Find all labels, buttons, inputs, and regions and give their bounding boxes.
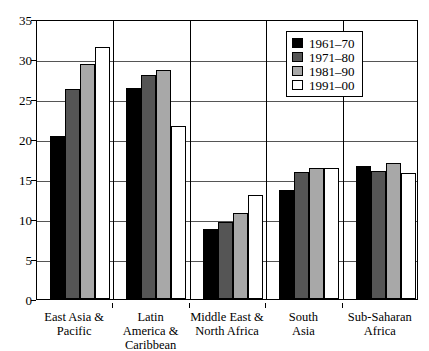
y-tick-mark [31, 260, 36, 261]
legend-item: 1991–00 [292, 78, 355, 92]
x-group-label: Sub-SaharanAfrica [342, 310, 418, 338]
y-tick-label: 25 [6, 94, 32, 107]
legend-swatch-icon [292, 66, 303, 76]
legend-label: 1991–00 [309, 79, 355, 92]
legend-label: 1971–80 [309, 51, 355, 64]
y-tick-label: 0 [6, 294, 32, 307]
legend: 1961–701971–801981–901991–00 [286, 31, 363, 97]
bar [95, 47, 110, 299]
x-group-label: SouthAsia [265, 310, 341, 338]
legend-item: 1981–90 [292, 64, 355, 78]
x-tick-mark [265, 303, 266, 308]
y-axis: 35302520151050 [0, 20, 32, 300]
group-separator [113, 21, 114, 299]
x-tick-mark [112, 303, 113, 308]
bar [356, 166, 371, 299]
bar [156, 70, 171, 299]
bar [279, 190, 294, 299]
bar [65, 89, 80, 299]
x-tick-mark [342, 303, 343, 308]
legend-swatch-icon [292, 38, 303, 48]
x-axis: East Asia &PacificLatinAmerica &Caribbea… [36, 303, 418, 351]
group-separator [190, 21, 191, 299]
y-tick-label: 20 [6, 134, 32, 147]
bar [126, 88, 141, 299]
x-tick-mark [189, 303, 190, 308]
bar [248, 195, 263, 299]
y-tick-label: 5 [6, 254, 32, 267]
legend-item: 1961–70 [292, 36, 355, 50]
x-group-label: LatinAmerica &Caribbean [112, 310, 188, 351]
y-tick-mark [31, 140, 36, 141]
x-group-label: East Asia &Pacific [36, 310, 112, 338]
bar [203, 229, 218, 299]
y-tick-mark [31, 100, 36, 101]
y-tick-mark [31, 180, 36, 181]
legend-label: 1961–70 [309, 37, 355, 50]
bar-chart: 35302520151050 East Asia &PacificLatinAm… [0, 0, 429, 351]
y-tick-mark [31, 60, 36, 61]
bar [309, 168, 324, 299]
y-tick-mark [31, 300, 36, 301]
y-tick-mark [31, 220, 36, 221]
bar [218, 222, 233, 299]
y-tick-mark [31, 20, 36, 21]
legend-item: 1971–80 [292, 50, 355, 64]
y-tick-label: 35 [6, 14, 32, 27]
y-tick-label: 15 [6, 174, 32, 187]
x-group-label: Middle East &North Africa [189, 310, 265, 338]
legend-swatch-icon [292, 52, 303, 62]
bar [401, 173, 416, 299]
bar [386, 163, 401, 299]
bar [171, 126, 186, 299]
bar [233, 213, 248, 299]
bar [141, 75, 156, 299]
bar [50, 136, 65, 299]
legend-swatch-icon [292, 80, 303, 90]
y-tick-label: 10 [6, 214, 32, 227]
bar [294, 172, 309, 299]
legend-label: 1981–90 [309, 65, 355, 78]
bar [80, 64, 95, 299]
group-separator [266, 21, 267, 299]
bar [324, 168, 339, 299]
bar [371, 171, 386, 299]
y-tick-label: 30 [6, 54, 32, 67]
